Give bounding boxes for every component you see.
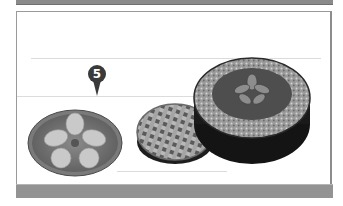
illustration-frame: 5 <box>16 11 332 198</box>
petal-pie-image <box>25 107 125 179</box>
top-band <box>16 0 333 5</box>
callout-marker: 5 <box>87 64 107 104</box>
bottom-band <box>16 184 333 198</box>
guide-line-middle <box>17 96 197 97</box>
deep-dish-pie-image <box>190 52 315 167</box>
callout-number: 5 <box>87 64 107 84</box>
guide-line-lower <box>117 171 227 172</box>
